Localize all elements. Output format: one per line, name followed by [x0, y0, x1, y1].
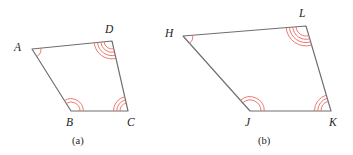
vertex-label-j: J	[245, 117, 250, 129]
vertex-label-k: K	[329, 117, 337, 129]
vertex-label-l: L	[299, 8, 305, 20]
angle-arc	[37, 48, 41, 57]
angle-arc	[190, 35, 193, 43]
vertex-label-c: C	[127, 117, 135, 129]
caption-panel-b: (b)	[258, 136, 270, 147]
angle-arc	[120, 103, 126, 111]
polygon-abcd	[32, 41, 128, 111]
angle-arc	[321, 101, 328, 111]
angle-marks-h	[190, 35, 193, 43]
quadrilateral-hjkl	[183, 26, 331, 111]
vertex-label-b: B	[66, 117, 73, 129]
geometry-canvas	[0, 0, 353, 155]
vertex-label-d: D	[105, 24, 113, 36]
vertex-label-h: H	[165, 28, 173, 40]
vertex-label-a: A	[14, 42, 21, 54]
geometry-figure: A B C D H J K L (a) (b)	[0, 0, 353, 155]
angle-marks-l	[286, 27, 311, 46]
caption-panel-a: (a)	[72, 136, 84, 147]
quadrilateral-abcd	[32, 41, 128, 111]
angle-marks-c	[113, 97, 126, 111]
angle-marks-k	[314, 95, 328, 111]
angle-arc	[117, 100, 126, 111]
angle-arc	[318, 98, 328, 111]
angle-marks-a	[37, 48, 41, 57]
